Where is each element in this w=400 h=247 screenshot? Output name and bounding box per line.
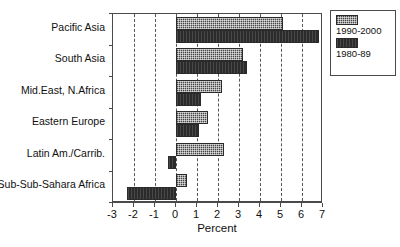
- legend-swatch-dark-solid-swatch: [336, 38, 358, 48]
- y-axis-label-eastern-europe: Eastern Europe: [32, 116, 105, 127]
- x-axis-ticklabel--2: -2: [128, 208, 138, 220]
- gridline--2: [134, 14, 135, 201]
- x-axis-tick--1: [154, 203, 155, 207]
- y-axis-label-latin-am-carrib: Latin Am./Carrib.: [27, 148, 105, 159]
- bar-mid-east-n-africa-1990-2000: [176, 80, 222, 93]
- bar-mid-east-n-africa-1980-89: [176, 93, 201, 106]
- y-axis-label-mid-east-n-africa: Mid.East, N.Africa: [21, 85, 105, 96]
- bar-latin-am-carrib-1990-2000: [176, 143, 224, 156]
- x-axis-ticklabel-2: 2: [214, 208, 220, 220]
- x-axis-tick--2: [133, 203, 134, 207]
- bar-latin-am-carrib-1980-89: [168, 156, 176, 169]
- bar-pacific-asia-1980-89: [176, 30, 319, 43]
- plot-area: [112, 13, 322, 202]
- bar-sub-sub-sahara-africa-1980-89: [127, 187, 176, 200]
- x-axis-ticklabel-7: 7: [319, 208, 325, 220]
- bar-eastern-europe-1990-2000: [176, 111, 208, 124]
- x-axis-ticklabel--3: -3: [107, 208, 117, 220]
- y-axis-label-pacific-asia: Pacific Asia: [51, 22, 105, 33]
- x-axis-ticklabel-4: 4: [256, 208, 262, 220]
- x-axis-tick-6: [301, 203, 302, 207]
- x-axis-ticklabel-3: 3: [235, 208, 241, 220]
- legend-entry-1990-2000: 1990-2000: [336, 15, 395, 36]
- x-axis-tick-1: [196, 203, 197, 207]
- x-axis-ticklabel-0: 0: [172, 208, 178, 220]
- x-axis-title: Percent: [112, 222, 322, 234]
- x-axis-ticklabel-1: 1: [193, 208, 199, 220]
- legend-entry-1980-89: 1980-89: [336, 38, 395, 59]
- x-axis-ticklabel-5: 5: [277, 208, 283, 220]
- x-axis-ticklabel--1: -1: [149, 208, 159, 220]
- x-axis-tick-7: [322, 203, 323, 207]
- bar-south-asia-1990-2000: [176, 48, 243, 61]
- bar-south-asia-1980-89: [176, 61, 247, 74]
- gridline--1: [155, 14, 156, 201]
- y-axis-label-sub-sub-sahara-africa: Sub-Sub-Sahara Africa: [0, 179, 105, 190]
- x-axis-tick-5: [280, 203, 281, 207]
- x-axis-ticklabel-6: 6: [298, 208, 304, 220]
- legend-label-1990-2000: 1990-2000: [336, 25, 395, 36]
- x-axis: -3-2-101234567: [112, 202, 322, 203]
- x-axis-tick-0: [175, 203, 176, 207]
- y-axis-label-south-asia: South Asia: [55, 53, 105, 64]
- bar-eastern-europe-1980-89: [176, 124, 199, 137]
- bar-chart: Pacific AsiaSouth AsiaMid.East, N.Africa…: [0, 0, 400, 247]
- bar-pacific-asia-1990-2000: [176, 17, 283, 30]
- x-axis-tick-2: [217, 203, 218, 207]
- chart-legend: 1990-2000 1980-89: [330, 10, 396, 76]
- bar-sub-sub-sahara-africa-1990-2000: [176, 174, 187, 187]
- x-axis-tick-3: [238, 203, 239, 207]
- y-axis-category-labels: Pacific AsiaSouth AsiaMid.East, N.Africa…: [0, 12, 108, 202]
- legend-label-1980-89: 1980-89: [336, 48, 395, 59]
- x-axis-tick-4: [259, 203, 260, 207]
- legend-swatch-light-hatched-swatch: [336, 15, 358, 25]
- x-axis-tick--3: [112, 203, 113, 207]
